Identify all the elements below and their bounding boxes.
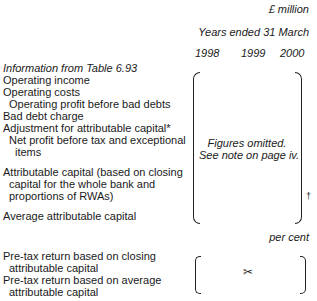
row-return-closing-cont: attributable capital bbox=[9, 262, 98, 274]
row-average-capital: Average attributable capital bbox=[3, 210, 136, 222]
row-return-closing: Pre-tax return based on closing bbox=[3, 250, 156, 262]
omitted-note-line2: See note on page iv. bbox=[199, 149, 295, 161]
row-attributable-capital: Attributable capital (based on closing bbox=[3, 166, 183, 178]
dagger-mark: † bbox=[306, 190, 311, 202]
year-2000: 2000 bbox=[280, 47, 304, 59]
row-net-profit-cont: items bbox=[15, 146, 41, 158]
row-bad-debt: Bad debt charge bbox=[3, 110, 84, 122]
unit-label: £ million bbox=[269, 3, 309, 15]
row-return-average-cont: attributable capital bbox=[9, 286, 98, 298]
year-1999: 1999 bbox=[241, 47, 265, 59]
left-bracket-small bbox=[195, 256, 201, 294]
right-bracket bbox=[295, 72, 302, 224]
row-operating-profit: Operating profit before bad debts bbox=[9, 98, 170, 110]
row-attributable-capital-cont1: capital for the whole bank and bbox=[9, 178, 155, 190]
row-return-average: Pre-tax return based on average bbox=[3, 274, 161, 286]
period-label: Years ended 31 March bbox=[198, 26, 309, 38]
right-bracket-small bbox=[300, 256, 306, 294]
year-1998: 1998 bbox=[195, 47, 219, 59]
row-attributable-capital-cont2: proportions of RWAs) bbox=[9, 190, 114, 202]
scissors-icon: ✂ bbox=[238, 266, 258, 278]
row-adjustment: Adjustment for attributable capital* bbox=[3, 122, 171, 134]
row-operating-income: Operating income bbox=[3, 74, 90, 86]
source-note: Information from Table 6.93 bbox=[3, 62, 137, 74]
percent-unit: per cent bbox=[269, 231, 309, 243]
row-operating-costs: Operating costs bbox=[3, 86, 80, 98]
row-net-profit: Net profit before tax and exceptional bbox=[9, 134, 186, 146]
omitted-note-line1: Figures omitted. bbox=[199, 137, 295, 149]
